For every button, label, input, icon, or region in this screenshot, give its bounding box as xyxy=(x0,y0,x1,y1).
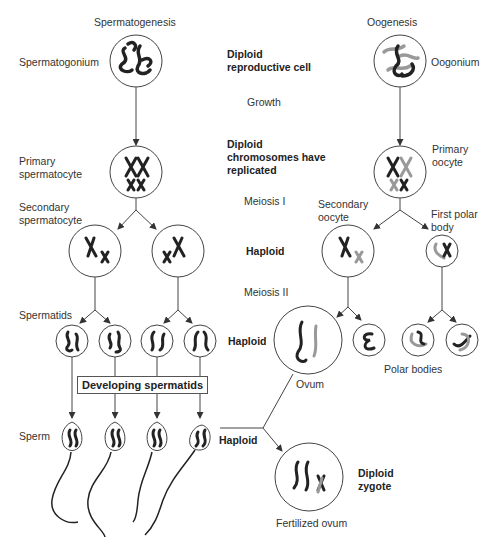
label-growth: Growth xyxy=(247,96,281,109)
label-meiosis-2: Meiosis II xyxy=(244,286,288,299)
label-primary-spermatocyte-2: spermatocyte xyxy=(19,168,82,181)
label-diploid-zygote-2: zygote xyxy=(358,480,391,493)
label-polar-bodies: Polar bodies xyxy=(384,363,442,376)
label-haploid-1: Haploid xyxy=(246,245,285,258)
label-secondary-oocyte-2: oocyte xyxy=(318,211,349,224)
label-diploid-replicated-1: Diploid xyxy=(227,138,263,151)
label-primary-oocyte-1: Primary xyxy=(432,143,468,156)
primary-spermatocyte-cell xyxy=(110,146,162,198)
label-fertilized-ovum: Fertilized ovum xyxy=(276,517,347,530)
label-diploid-replicated-3: replicated xyxy=(227,164,277,177)
header-spermatogenesis: Spermatogenesis xyxy=(94,16,176,29)
label-secondary-spermatocyte-1: Secondary xyxy=(19,201,69,214)
label-diploid-replicated-2: chromosomes have xyxy=(227,151,326,164)
label-secondary-oocyte-1: Secondary xyxy=(318,198,368,211)
label-meiosis-1: Meiosis I xyxy=(244,195,285,208)
label-spermatogonium: Spermatogonium xyxy=(19,56,99,69)
label-haploid-2: Haploid xyxy=(228,335,267,348)
label-first-polar-body-1: First polar xyxy=(431,208,478,221)
label-ovum: Ovum xyxy=(296,378,324,391)
gametogenesis-diagram xyxy=(0,0,500,557)
label-first-polar-body-2: body xyxy=(431,221,454,234)
label-diploid-repro-1: Diploid xyxy=(227,48,263,61)
header-oogenesis: Oogenesis xyxy=(367,16,417,29)
label-primary-spermatocyte-1: Primary xyxy=(19,155,55,168)
label-haploid-3: Haploid xyxy=(219,434,258,447)
label-secondary-spermatocyte-2: spermatocyte xyxy=(19,214,82,227)
label-oogonium: Oogonium xyxy=(431,56,479,69)
label-diploid-repro-2: reproductive cell xyxy=(227,61,311,74)
label-diploid-zygote-1: Diploid xyxy=(358,467,394,480)
label-primary-oocyte-2: oocyte xyxy=(432,156,463,169)
developing-spermatids-box: Developing spermatids xyxy=(77,376,208,394)
label-spermatids: Spermatids xyxy=(19,309,72,322)
label-sperm: Sperm xyxy=(19,430,50,443)
